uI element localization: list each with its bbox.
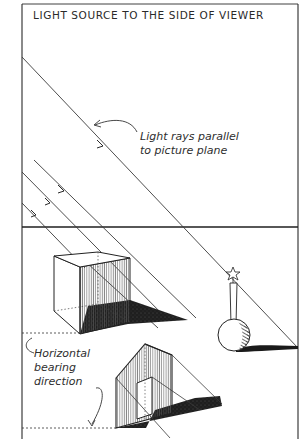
house-door <box>137 377 152 419</box>
diagram-title: LIGHT SOURCE TO THE SIDE OF VIEWER <box>33 9 302 21</box>
annotation-line: to picture plane <box>140 144 239 158</box>
cube-side-face <box>80 258 130 334</box>
light-rays-annotation: Light rays parallel to picture plane <box>140 130 239 158</box>
annotation-line: bearing <box>34 361 90 375</box>
bearing-annotation: Horizontal bearing direction <box>34 347 90 389</box>
cube-front-face <box>54 256 80 334</box>
bearing-callout-arrow <box>92 388 102 424</box>
annotation-line: Horizontal <box>34 347 90 361</box>
house <box>116 344 222 438</box>
flower-icon <box>226 267 240 283</box>
annotation-line: Light rays parallel <box>140 130 239 144</box>
bearing-bracket <box>26 338 34 353</box>
annotation-line: direction <box>34 375 90 389</box>
ray-arrow-icons <box>31 140 103 217</box>
rays-callout-arrow <box>95 120 137 132</box>
vase <box>218 267 298 352</box>
cube <box>54 252 188 334</box>
